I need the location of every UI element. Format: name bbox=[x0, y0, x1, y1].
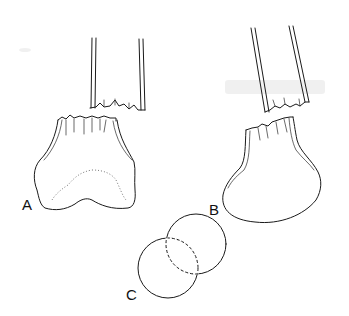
panel-c-label: C bbox=[126, 286, 137, 303]
panel-b-distal-end bbox=[223, 117, 321, 223]
scan-background-marks bbox=[19, 48, 325, 94]
panel-b: B bbox=[209, 26, 321, 223]
panel-a: A bbox=[22, 38, 145, 213]
panel-b-shaft bbox=[251, 26, 309, 112]
panel-c: C bbox=[126, 214, 226, 303]
panel-b-label: B bbox=[209, 201, 219, 218]
panel-a-shaft bbox=[90, 38, 145, 110]
panel-a-distal-end bbox=[34, 115, 135, 210]
figure-illustration: A B bbox=[0, 0, 349, 316]
panel-a-label: A bbox=[22, 196, 32, 213]
